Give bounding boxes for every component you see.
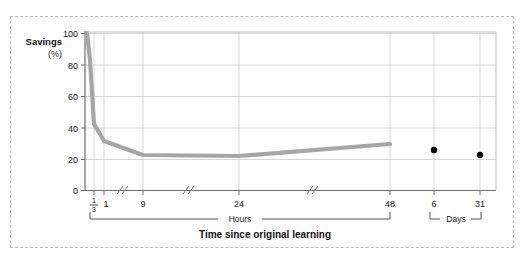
ytick-label-60: 60: [68, 92, 78, 102]
xtick-label-1: 1: [103, 199, 108, 209]
forgetting-curve-chart: 100 80 60 40 20 0 Savings (%): [0, 0, 523, 259]
ytick-label-0: 0: [73, 186, 78, 196]
axis-group-days-label: Days: [446, 214, 465, 224]
axis-group-hours-label: Hours: [229, 214, 252, 224]
xtick-label-31: 31: [475, 199, 485, 209]
xtick-label-one-third: 1 3: [90, 197, 98, 213]
ytick-label-20: 20: [68, 155, 78, 165]
vertical-scrollbar-track[interactable]: [506, 18, 519, 246]
ytick-label-100: 100: [63, 29, 78, 39]
xtick-label-6: 6: [431, 199, 436, 209]
xtick-label-48: 48: [385, 199, 395, 209]
ytick-label-40: 40: [68, 124, 78, 134]
y-axis-title-line1: Savings: [26, 36, 62, 47]
xtick-frac-denominator: 3: [92, 206, 96, 213]
x-axis-ticks: [94, 191, 480, 196]
xtick-label-9: 9: [140, 199, 145, 209]
chart-title: Time since original learning: [199, 229, 331, 240]
data-point-6-days: [431, 147, 437, 153]
ytick-label-80: 80: [68, 61, 78, 71]
xtick-frac-numerator: 1: [92, 197, 96, 204]
y-axis-title-line2: (%): [48, 49, 62, 59]
data-point-31-days: [477, 152, 483, 158]
xtick-label-24: 24: [234, 199, 244, 209]
